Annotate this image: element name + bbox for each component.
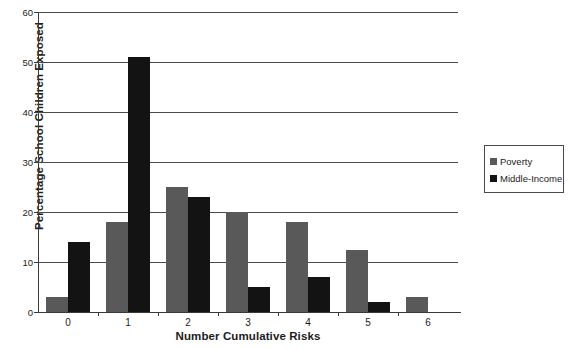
y-tick-label: 10 [22,257,33,268]
bar-poverty-4 [286,222,308,312]
bar-group [346,12,390,312]
bar-group [226,12,270,312]
x-tick-mark [278,312,279,316]
bar-group [286,12,330,312]
x-tick-mark [158,312,159,316]
y-tick-label: 40 [22,107,33,118]
legend-item-middle-income: Middle-Income [490,173,559,184]
x-tick-label: 3 [245,317,251,328]
bar-poverty-5 [346,250,368,313]
legend-label-poverty: Poverty [500,156,532,167]
bar-middle-income-0 [68,242,90,312]
bar-group [106,12,150,312]
bar-group [406,12,450,312]
bar-middle-income-1 [128,57,150,312]
bar-middle-income-3 [248,287,270,312]
x-tick-label: 5 [365,317,371,328]
bars-layer [38,12,458,312]
x-tick-mark [98,312,99,316]
y-tick-label: 60 [22,7,33,18]
y-tick-label: 20 [22,207,33,218]
bar-chart: Percentage School Children Exposed 01020… [0,0,572,349]
bar-middle-income-2 [188,197,210,312]
x-tick-label: 2 [185,317,191,328]
x-tick-label: 4 [305,317,311,328]
plot-area: 0102030405060 0123456 [38,12,458,312]
bar-group [46,12,90,312]
y-tick-label: 0 [28,307,33,318]
bar-group [166,12,210,312]
bar-middle-income-4 [308,277,330,312]
x-tick-mark [398,312,399,316]
bar-poverty-0 [46,297,68,312]
bar-poverty-3 [226,212,248,312]
legend-swatch-icon [490,175,497,182]
bar-poverty-1 [106,222,128,312]
legend-item-poverty: Poverty [490,156,559,167]
x-tick-label: 6 [425,317,431,328]
legend-swatch-icon [490,158,497,165]
x-tick-label: 0 [65,317,71,328]
bar-poverty-2 [166,187,188,312]
y-tick-label: 30 [22,157,33,168]
y-tick-mark [34,312,38,313]
x-axis-title: Number Cumulative Risks [38,330,458,342]
x-tick-label: 1 [125,317,131,328]
legend: Poverty Middle-Income [484,145,564,193]
legend-label-middle-income: Middle-Income [500,173,562,184]
y-tick-label: 50 [22,57,33,68]
x-tick-mark [338,312,339,316]
bar-middle-income-5 [368,302,390,312]
bar-poverty-6 [406,297,428,312]
x-tick-mark [218,312,219,316]
